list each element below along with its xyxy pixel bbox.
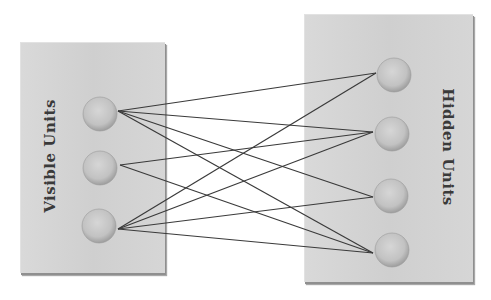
edge-v1-h4: [118, 111, 373, 253]
unit-h2: [375, 117, 409, 151]
unit-v2: [83, 151, 117, 185]
edge-v1-h2: [118, 111, 373, 132]
edge-v2-h4: [120, 165, 373, 253]
edge-v1-h1: [118, 73, 376, 111]
edges-group: [118, 73, 376, 253]
edge-v3-h4: [118, 229, 373, 253]
edge-v1-h3: [118, 111, 373, 197]
unit-v1: [83, 97, 117, 131]
edge-v3-h3: [118, 197, 373, 229]
edge-v3-h1: [118, 73, 376, 229]
network-diagram: [0, 0, 491, 300]
units-group: [82, 58, 411, 267]
unit-h3: [374, 179, 408, 213]
unit-v3: [82, 209, 116, 243]
unit-h1: [377, 58, 411, 92]
unit-h4: [375, 233, 409, 267]
edge-v3-h2: [118, 132, 373, 229]
edge-v2-h2: [120, 132, 373, 165]
